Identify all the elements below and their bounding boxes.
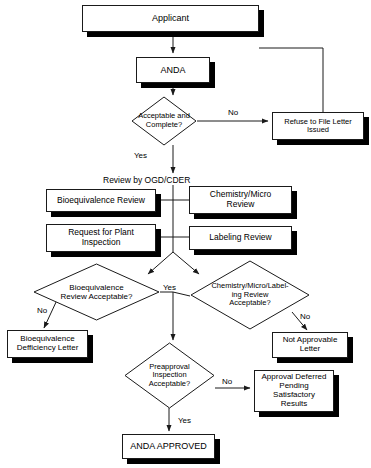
chemreview-face: Chemistry/Micro Review (189, 186, 292, 214)
notappr-face: Not Approvable Letter (272, 332, 348, 358)
deferred-line3: Satisfactory Results (258, 391, 330, 409)
node-applicant[interactable]: Applicant (82, 5, 259, 32)
node-request-for-plant-inspection[interactable]: Request for Plant Inspection (46, 224, 156, 252)
edge-label-no-acceptable-complete: No (228, 109, 238, 117)
chem-acceptable-diamond-shape (190, 260, 310, 330)
flowchart-canvas: Applicant ANDA Acceptable and Complete? … (0, 0, 371, 468)
node-anda[interactable]: ANDA (136, 57, 210, 83)
applicant-face: Applicant (82, 5, 259, 32)
chemreview-text: Chemistry/Micro Review (204, 190, 277, 209)
biodef-face: Bioequivalence Defficiency Letter (7, 330, 88, 358)
bio-acceptable-diamond-shape (33, 263, 160, 321)
edge-label-yes-acceptable-complete: Yes (134, 152, 147, 160)
approved-face: ANDA APPROVED (122, 434, 215, 459)
node-refuse-to-file-letter[interactable]: Refuse to File Letter Issued (272, 112, 364, 140)
node-acceptable-and-complete[interactable]: Acceptable and Complete? (131, 96, 197, 146)
edge-label-no-preapproval: No (222, 378, 232, 386)
edge-label-yes-reviews: Yes (163, 284, 176, 292)
acceptable-diamond-shape (131, 96, 197, 146)
chemreview-line2: Review (207, 200, 274, 210)
refuse-face: Refuse to File Letter Issued (272, 112, 364, 140)
labeling-label: Labeling Review (206, 233, 274, 243)
notappr-text: Not Approvable Letter (277, 336, 344, 354)
node-chemistry-micro-review[interactable]: Chemistry/Micro Review (189, 186, 292, 214)
node-preapproval-inspection-acceptable[interactable]: Preapproval Inspection Acceptable? (124, 342, 215, 409)
notappr-line2: Letter (280, 345, 341, 354)
edge-label-yes-preapproval: Yes (178, 417, 191, 425)
edge-label-no-bio-review: No (37, 307, 47, 315)
node-approval-deferred[interactable]: Approval Deferred Pending Satisfactory R… (254, 370, 334, 412)
labeling-face: Labeling Review (189, 226, 292, 250)
preapproval-diamond-shape (124, 342, 215, 409)
plantreq-face: Request for Plant Inspection (46, 224, 156, 252)
refuse-line2: Issued (281, 126, 355, 134)
approved-label: ANDA APPROVED (127, 441, 210, 451)
edge-chem-accept-to-junction (173, 292, 190, 296)
bioreview-label: Bioequivalence Review (54, 196, 148, 206)
anda-face: ANDA (136, 57, 210, 83)
deferred-face: Approval Deferred Pending Satisfactory R… (254, 370, 334, 412)
node-labeling-review[interactable]: Labeling Review (189, 226, 292, 250)
node-anda-approved[interactable]: ANDA APPROVED (122, 434, 215, 459)
deferred-text: Approval Deferred Pending Satisfactory R… (255, 373, 333, 409)
node-bioequivalence-review-acceptable[interactable]: Bioequivalence Review Acceptable? (33, 263, 160, 321)
node-chem-micro-labeling-acceptable[interactable]: Chemistry/Micro/Label- ing Review Accept… (190, 260, 310, 330)
label-review-by-ogd-cder: Review by OGD/CDER (103, 176, 190, 185)
biodef-text: Bioequivalence Defficiency Letter (11, 335, 85, 353)
biodef-line2: Defficiency Letter (14, 344, 82, 353)
bioreview-face: Bioequivalence Review (46, 189, 156, 212)
plantreq-text: Request for Plant Inspection (62, 228, 140, 247)
refuse-text: Refuse to File Letter Issued (278, 118, 358, 135)
edge-label-no-chem-micro: No (300, 313, 310, 321)
anda-label: ANDA (157, 65, 188, 75)
node-not-approvable-letter[interactable]: Not Approvable Letter (272, 332, 348, 358)
edge-refuse-back-to-applicant (259, 48, 323, 115)
node-bioequivalence-review[interactable]: Bioequivalence Review (46, 189, 156, 212)
node-bioequivalence-deficiency-letter[interactable]: Bioequivalence Defficiency Letter (7, 330, 88, 358)
applicant-label: Applicant (149, 13, 192, 23)
plantreq-line2: Inspection (65, 238, 137, 248)
